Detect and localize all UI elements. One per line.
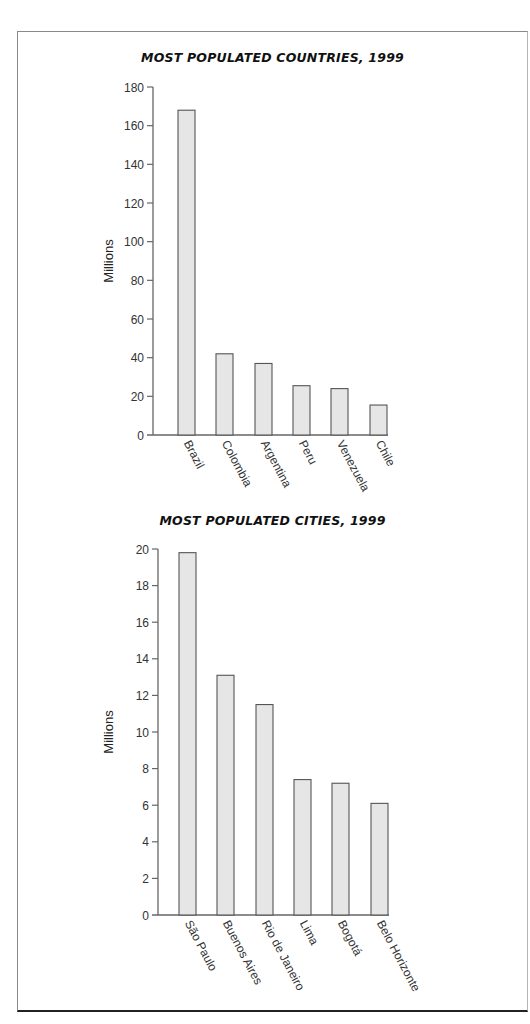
- y-tick-label: 18: [136, 579, 150, 593]
- y-tick-label: 12: [136, 689, 150, 703]
- y-tick-label: 8: [142, 762, 149, 776]
- y-axis-label: Millions: [101, 710, 116, 754]
- category-label: Belo Horizonte: [374, 918, 423, 994]
- y-tick-label: 4: [142, 835, 149, 849]
- bar: [371, 803, 388, 915]
- y-tick-label: 6: [142, 799, 149, 813]
- y-tick-label: 0: [142, 909, 149, 923]
- y-tick-label: 10: [136, 726, 150, 740]
- y-tick-label: 14: [136, 652, 150, 666]
- bar: [294, 780, 311, 915]
- category-label: São Paulo: [182, 918, 221, 974]
- cities-bar-chart: 02468101214161820MillionsSão PauloBuenos…: [0, 0, 530, 1024]
- bar: [256, 705, 273, 915]
- y-tick-label: 2: [142, 872, 149, 886]
- category-label: Bogotá: [335, 918, 365, 958]
- category-label: Lima: [297, 918, 322, 948]
- y-tick-label: 16: [136, 616, 150, 630]
- bar: [217, 675, 234, 915]
- bar: [332, 783, 349, 915]
- category-label: Buenos Aires: [220, 918, 266, 987]
- bar: [179, 553, 196, 915]
- y-tick-label: 20: [136, 543, 150, 557]
